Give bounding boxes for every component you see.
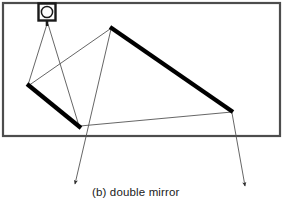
camera-projector	[39, 4, 56, 27]
ray-source-to-mirror-left-top	[28, 24, 47, 85]
output-ray-right-with-arrow	[232, 113, 245, 186]
figure-caption: (b) double mirror	[92, 186, 180, 198]
output-ray-left-with-arrow	[75, 29, 111, 184]
ray-mirror-left-bottom-to-mirror-right-bottom	[80, 112, 232, 126]
mirror-right	[110, 27, 233, 112]
figure-double-mirror: (b) double mirror	[0, 0, 285, 205]
ray-source-to-mirror-left-bottom	[48, 24, 79, 126]
camera-lens-icon	[41, 6, 52, 17]
room-boundary-rectangle	[3, 3, 280, 136]
diagram-canvas: (b) double mirror	[0, 0, 285, 205]
ray-mirror-left-top-to-mirror-right-top	[28, 29, 110, 86]
